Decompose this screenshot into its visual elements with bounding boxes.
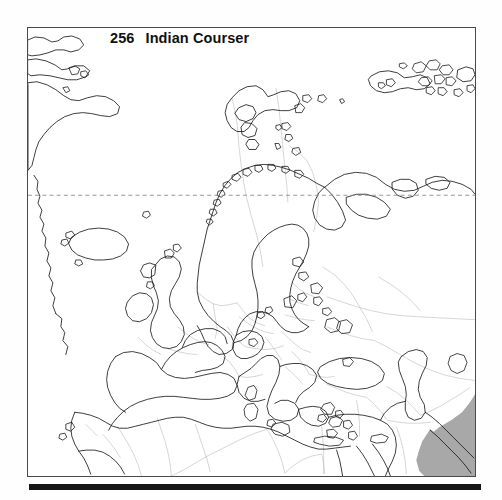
coastline-cyprus [370,434,388,443]
range-shading-layer [416,394,475,476]
coastline-red-sea [357,446,375,476]
coastline-fennoscandia [197,164,324,354]
coastline-layer [28,36,475,476]
coastline-faroe-islands [142,211,150,218]
coastline-svalbard [225,86,300,132]
coastline-sicily [271,422,290,436]
coastline-iceland [69,228,129,260]
field-guide-page: 256 Indian Courser [0,0,502,500]
coastline-great-britain [150,256,184,349]
map-canvas [28,28,475,476]
coastline-northern-russia [325,172,475,194]
coastline-corsica [245,385,257,400]
distribution-map[interactable] [27,27,476,477]
coastline-balkans [280,364,317,403]
coastline-aral-sea [448,354,467,374]
bottom-rule [29,484,481,490]
coastline-franz-josef-land [368,71,430,93]
coastline-sardinia [244,403,258,421]
coastline-france [161,342,225,373]
coastline-north-africa [75,412,351,449]
coastline-greenland [28,36,84,56]
coastline-caspian-sea [398,350,427,421]
coastline-ireland [126,293,154,322]
coastline-iberia [109,352,237,431]
